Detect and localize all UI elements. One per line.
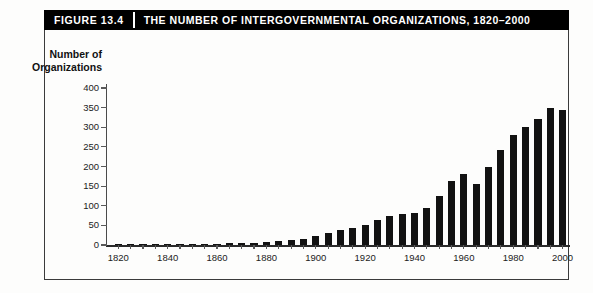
x-minor-tick xyxy=(303,245,304,249)
bar xyxy=(115,244,122,245)
x-minor-tick xyxy=(426,245,427,249)
x-minor-tick xyxy=(130,245,131,249)
bar xyxy=(176,244,183,245)
x-minor-tick xyxy=(278,245,279,249)
y-tick-label: 300 xyxy=(55,121,99,132)
x-minor-tick xyxy=(488,245,489,249)
x-tick-label: 1820 xyxy=(98,252,138,263)
bar xyxy=(423,208,430,245)
bar xyxy=(460,174,467,245)
figure-root: FIGURE 13.4 THE NUMBER OF INTERGOVERNMEN… xyxy=(0,0,593,293)
bar xyxy=(436,196,443,245)
y-tick-label: 200 xyxy=(55,161,99,172)
x-tick-label: 1840 xyxy=(148,252,188,263)
x-minor-tick xyxy=(500,245,501,249)
bar xyxy=(510,135,517,245)
bar xyxy=(288,240,295,245)
x-tick-label: 1900 xyxy=(296,252,336,263)
x-minor-tick xyxy=(389,245,390,249)
x-minor-tick xyxy=(525,245,526,249)
bar xyxy=(226,243,233,245)
bar xyxy=(473,184,480,245)
bar xyxy=(201,244,208,245)
bar xyxy=(152,244,159,245)
bar xyxy=(275,241,282,245)
bar xyxy=(547,108,554,245)
x-minor-tick xyxy=(414,245,415,249)
x-tick-label: 1880 xyxy=(246,252,286,263)
bar xyxy=(213,244,220,245)
x-tick-label: 2000 xyxy=(543,252,583,263)
y-tick-label: 400 xyxy=(55,82,99,93)
x-minor-tick xyxy=(476,245,477,249)
x-minor-tick xyxy=(315,245,316,249)
x-minor-tick xyxy=(167,245,168,249)
x-minor-tick xyxy=(266,245,267,249)
x-tick-label: 1860 xyxy=(197,252,237,263)
figure-number-label: FIGURE 13.4 xyxy=(44,10,133,30)
bar xyxy=(497,150,504,245)
x-minor-tick xyxy=(192,245,193,249)
bar xyxy=(300,239,307,245)
bar xyxy=(325,233,332,245)
y-axis-label: Number of Organizations xyxy=(22,48,102,73)
x-tick-label: 1960 xyxy=(444,252,484,263)
y-tick-label: 0 xyxy=(55,239,99,250)
y-tick-label: 50 xyxy=(55,219,99,230)
figure-title-bar: FIGURE 13.4 THE NUMBER OF INTERGOVERNMEN… xyxy=(44,10,569,30)
bar xyxy=(337,230,344,245)
x-minor-tick xyxy=(155,245,156,249)
x-minor-tick xyxy=(463,245,464,249)
bar xyxy=(164,244,171,245)
x-tick-label: 1920 xyxy=(345,252,385,263)
x-minor-tick xyxy=(352,245,353,249)
bar xyxy=(139,244,146,245)
x-minor-tick xyxy=(537,245,538,249)
bar xyxy=(559,110,566,245)
x-tick-label: 1980 xyxy=(493,252,533,263)
x-minor-tick xyxy=(513,245,514,249)
bar xyxy=(263,242,270,245)
x-minor-tick xyxy=(291,245,292,249)
y-tick-label: 100 xyxy=(55,200,99,211)
bar xyxy=(411,213,418,245)
bar xyxy=(448,181,455,245)
bar xyxy=(189,244,196,245)
bar xyxy=(250,243,257,245)
figure-title: THE NUMBER OF INTERGOVERNMENTAL ORGANIZA… xyxy=(135,10,531,30)
y-tick-label: 150 xyxy=(55,180,99,191)
bar xyxy=(238,243,245,245)
x-minor-tick xyxy=(142,245,143,249)
bar xyxy=(522,127,529,245)
x-minor-tick xyxy=(328,245,329,249)
x-minor-tick xyxy=(451,245,452,249)
x-minor-tick xyxy=(439,245,440,249)
x-minor-tick xyxy=(377,245,378,249)
x-minor-tick xyxy=(253,245,254,249)
y-axis-label-line2: Organizations xyxy=(22,61,102,74)
bar xyxy=(534,119,541,245)
bar xyxy=(374,220,381,245)
bar xyxy=(349,228,356,245)
x-minor-tick xyxy=(365,245,366,249)
y-axis-label-line1: Number of xyxy=(22,48,102,61)
x-minor-tick xyxy=(241,245,242,249)
x-minor-tick xyxy=(118,245,119,249)
x-minor-tick xyxy=(204,245,205,249)
bar xyxy=(127,244,134,245)
bar-series xyxy=(106,88,570,245)
bar xyxy=(362,225,369,245)
x-minor-tick xyxy=(562,245,563,249)
x-minor-tick xyxy=(216,245,217,249)
x-minor-tick xyxy=(340,245,341,249)
bar xyxy=(386,216,393,245)
bar xyxy=(485,167,492,246)
x-minor-tick xyxy=(402,245,403,249)
y-tick-label: 350 xyxy=(55,102,99,113)
x-minor-tick xyxy=(550,245,551,249)
x-minor-tick xyxy=(229,245,230,249)
x-tick-label: 1940 xyxy=(395,252,435,263)
bar xyxy=(399,214,406,245)
x-minor-tick xyxy=(179,245,180,249)
bar xyxy=(312,236,319,245)
